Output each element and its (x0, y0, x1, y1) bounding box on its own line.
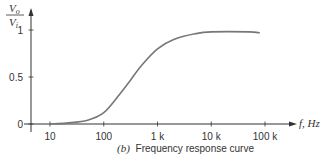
x-tick-label: 10 (44, 131, 56, 142)
response-curve (50, 32, 260, 124)
x-ticks: 101001 k10 k100 k (44, 122, 278, 143)
x-axis-arrow-icon (289, 122, 297, 127)
svg-text:Vo: Vo (9, 2, 20, 16)
y-tick-label: 0 (17, 119, 23, 130)
x-tick-label: 1 k (151, 131, 165, 142)
y-tick-label: 0.5 (9, 72, 23, 83)
x-tick-label: 100 (95, 131, 112, 142)
frequency-response-chart: 00.51 101001 k10 k100 k Vo Vi f, Hz (b) … (0, 0, 326, 160)
x-tick-label: 10 k (202, 131, 222, 142)
y-tick-label: 1 (17, 25, 23, 36)
chart-caption: (b) Frequency response curve (117, 142, 254, 155)
y-axis-arrow-icon (29, 8, 34, 16)
y-ticks: 00.51 (9, 25, 33, 130)
x-axis-label: f, Hz (299, 117, 321, 129)
x-tick-label: 100 k (253, 131, 278, 142)
svg-text:Vi: Vi (9, 16, 18, 30)
